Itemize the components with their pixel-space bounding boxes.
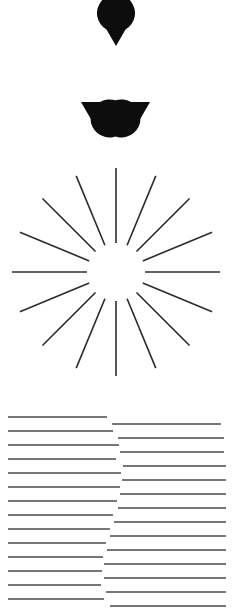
radial-starburst-figure bbox=[0, 150, 234, 395]
bottom-right-disc bbox=[102, 99, 150, 137]
starburst-ray bbox=[127, 176, 156, 245]
kanizsa-triangle-figure bbox=[0, 0, 234, 150]
starburst-ray bbox=[76, 176, 105, 245]
pacman-disc-group bbox=[81, 0, 150, 137]
starburst-ray bbox=[137, 198, 190, 251]
radial-starburst-canvas bbox=[0, 150, 234, 395]
starburst-ray bbox=[42, 198, 95, 251]
top-disc bbox=[97, 0, 135, 46]
starburst-ray bbox=[76, 299, 105, 368]
starburst-ray bbox=[143, 232, 212, 261]
right-line-group bbox=[104, 424, 226, 606]
left-line-group bbox=[8, 417, 121, 599]
starburst-ray-group bbox=[12, 168, 220, 376]
starburst-ray bbox=[20, 283, 89, 312]
starburst-ray bbox=[42, 293, 95, 346]
starburst-ray bbox=[137, 293, 190, 346]
illusion-figure-sheet bbox=[0, 0, 234, 608]
kanizsa-triangle-canvas bbox=[0, 0, 234, 150]
starburst-ray bbox=[20, 232, 89, 261]
starburst-ray bbox=[127, 299, 156, 368]
illusory-edge-canvas bbox=[0, 395, 234, 608]
illusory-edge-line-figure bbox=[0, 395, 234, 608]
starburst-ray bbox=[143, 283, 212, 312]
